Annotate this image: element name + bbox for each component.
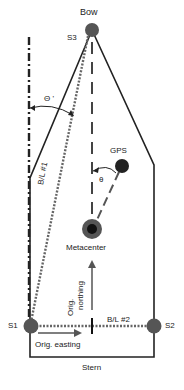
s3-point <box>85 23 99 37</box>
theta-prime-label: Θ ' <box>44 95 54 103</box>
orig-northing-label-2: northing <box>77 281 85 310</box>
easting-arrowhead <box>74 329 82 337</box>
orig-easting-label: Orig. easting <box>35 341 80 349</box>
vessel-diagram <box>0 0 184 390</box>
northing-arrowhead <box>88 260 96 268</box>
metacenter-label: Metacenter <box>66 244 106 252</box>
theta-prime-arc <box>30 106 73 115</box>
theta-prime-arrowhead-left <box>30 105 35 111</box>
orig-northing-label-1: Orig. <box>67 299 75 316</box>
bow-label: Bow <box>80 8 98 17</box>
bl2-label: B/L #2 <box>107 316 130 324</box>
s1-point <box>24 319 39 334</box>
s2-point <box>147 319 162 334</box>
s3-label: S3 <box>67 34 77 42</box>
stern-label: Stern <box>82 364 101 372</box>
metacenter-core <box>87 224 97 234</box>
s1-label: S1 <box>8 322 18 330</box>
gps-label: GPS <box>110 147 127 155</box>
theta-label: θ <box>99 176 103 184</box>
gps-point <box>115 159 129 173</box>
s2-label: S2 <box>165 322 175 330</box>
